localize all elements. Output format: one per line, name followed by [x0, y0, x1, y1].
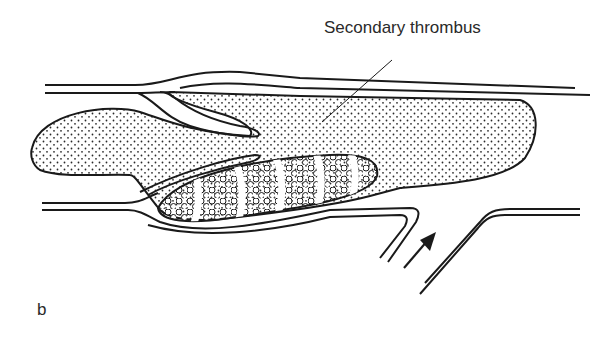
vessel-illustration [0, 0, 610, 344]
thrombus-diagram: Secondary thrombus b [0, 0, 610, 344]
panel-label: b [37, 300, 46, 320]
secondary-thrombus-annotation: Secondary thrombus [324, 18, 481, 38]
vessel-wall-upper [45, 72, 590, 95]
blood-flow-arrow-icon [404, 232, 436, 268]
side-branch-vessel [420, 209, 580, 294]
